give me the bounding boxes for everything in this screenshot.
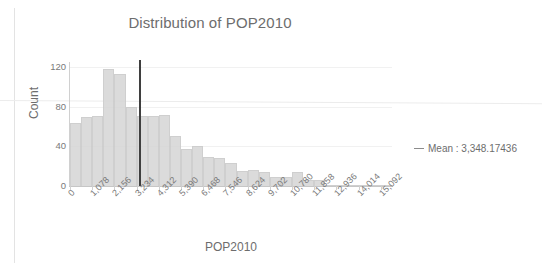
x-axis-title: POP2010: [70, 240, 392, 254]
y-axis-tick-label: 0: [32, 181, 66, 191]
chart-legend: Mean : 3,348.17436: [414, 143, 517, 154]
histogram-bar: [103, 69, 114, 186]
legend-item-label: Mean : 3,348.17436: [428, 143, 517, 154]
x-axis-tick-label: 0: [66, 187, 77, 198]
y-axis-title: Count: [27, 63, 41, 143]
histogram-bar: [70, 123, 81, 186]
histogram-bar: [159, 115, 170, 186]
histogram-bar: [81, 117, 92, 186]
histogram-chart: Distribution of POP2010 04080120 01,0782…: [0, 0, 542, 271]
histogram-bar: [114, 74, 125, 186]
plot-area: [70, 62, 392, 186]
legend-line-icon: [414, 148, 424, 149]
mean-vline-icon: [139, 60, 141, 186]
histogram-bar: [126, 107, 137, 186]
